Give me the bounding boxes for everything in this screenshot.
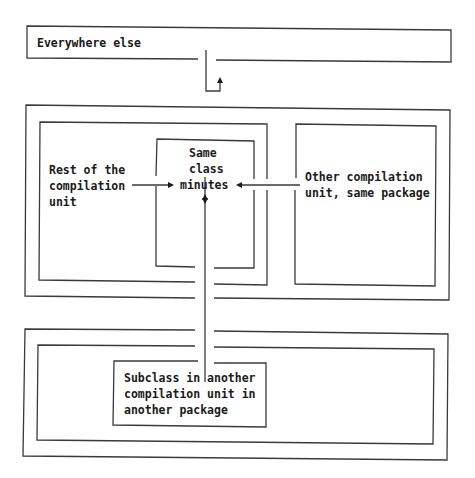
label-other-compilation-unit: Other compilation unit, same package xyxy=(305,169,430,201)
label-minutes: minutes xyxy=(180,177,228,193)
arrowhead-other-cu-icon xyxy=(236,182,242,188)
label-rest-of-compilation-unit: Rest of the compilation unit xyxy=(49,162,125,210)
other-compilation-unit-box xyxy=(295,124,436,286)
arrowhead-subclass-icon xyxy=(202,194,208,200)
label-same-class: Same class xyxy=(189,145,224,177)
label-subclass-other-package: Subclass in another compilation unit in … xyxy=(124,370,256,418)
arrowhead-rest-cu-icon xyxy=(168,182,174,188)
arrowhead-everywhere-icon xyxy=(217,77,223,83)
label-everywhere-else: Everywhere else xyxy=(37,35,141,51)
everywhere-else-connector xyxy=(206,50,220,91)
